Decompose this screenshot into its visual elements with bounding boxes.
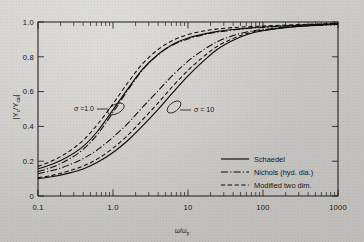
- right-axis-ticks: [332, 22, 338, 196]
- x-tick-label: 1000: [329, 203, 347, 212]
- y-axis-tick-labels: 00.20.40.60.81.0: [23, 18, 34, 201]
- legend-label: Modified two dim.: [254, 181, 312, 190]
- curve-sigma-10-dashed: [38, 24, 338, 178]
- annotation-label-sigma-1: σ =1.0: [74, 105, 94, 112]
- x-axis-title: ω/ωp: [175, 227, 190, 236]
- curve-sigma-1-dashed: [38, 23, 338, 166]
- svg-text:ω/ωp: ω/ωp: [175, 227, 190, 236]
- y-tick-label: 0.8: [23, 53, 34, 62]
- x-axis-tick-labels: 0.11.0101001000: [32, 203, 346, 212]
- y-tick-label: 0.4: [23, 122, 34, 131]
- chart-legend: SchaedelNichols (hyd. dia.)Modified two …: [221, 155, 313, 190]
- y-axis-title: |Yc/Ycal|: [11, 94, 21, 119]
- x-tick-label: 1.0: [107, 203, 118, 212]
- curve-sigma-1-dash-dot: [38, 24, 338, 172]
- legend-label: Nichols (hyd. dia.): [254, 168, 313, 177]
- annotation-sigma-1: σ =1.0: [74, 101, 126, 118]
- y-tick-label: 0.2: [23, 157, 34, 166]
- legend-label: Schaedel: [254, 155, 285, 164]
- curve-sigma-10-solid: [38, 24, 338, 179]
- figure-page: σ =1.0 σ = 10 0.11.0101001000 00.20.40.6…: [0, 0, 364, 242]
- x-tick-label: 0.1: [32, 203, 43, 212]
- chart-canvas: σ =1.0 σ = 10 0.11.0101001000 00.20.40.6…: [0, 0, 364, 242]
- curve-sigma-10-dash-dot: [38, 24, 338, 174]
- curve-sigma-1-solid: [38, 24, 338, 169]
- annotation-sigma-10: σ = 10: [165, 99, 214, 116]
- data-curves: [38, 23, 338, 178]
- annotation-label-sigma-10: σ = 10: [194, 106, 214, 113]
- x-tick-label: 100: [256, 203, 269, 212]
- y-tick-label: 0: [30, 192, 34, 201]
- y-tick-label: 1.0: [23, 18, 34, 27]
- x-tick-label: 10: [184, 203, 193, 212]
- y-tick-label: 0.6: [23, 87, 34, 96]
- x-axis-ticks: [38, 190, 338, 197]
- svg-text:|Yc/Ycal|: |Yc/Ycal|: [11, 94, 21, 119]
